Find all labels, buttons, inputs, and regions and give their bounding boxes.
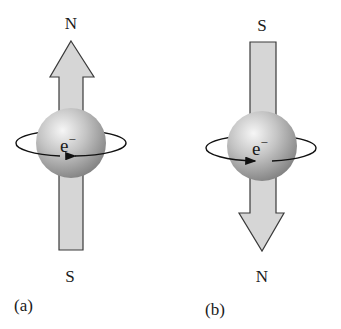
panel-b: e− S N (b) <box>205 16 316 319</box>
pole-label-bottom-b: N <box>256 267 268 286</box>
panel-a: e− N S (a) <box>14 14 126 315</box>
pole-label-top-b: S <box>257 16 266 35</box>
electron-spin-diagram: e− N S (a) e− S N (b) <box>0 0 341 329</box>
caption-a: (a) <box>14 296 33 315</box>
pole-label-bottom-a: S <box>65 267 74 286</box>
pole-label-top-a: N <box>65 14 77 33</box>
caption-b: (b) <box>205 300 225 319</box>
